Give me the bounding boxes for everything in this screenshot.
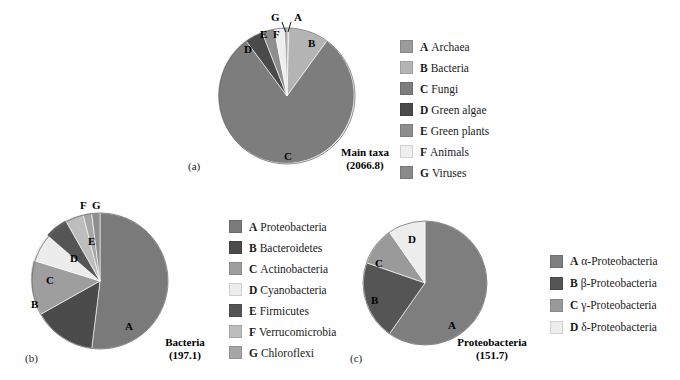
legend-swatch-a-A <box>400 40 413 53</box>
pie-b-label-A: A <box>125 320 133 332</box>
legend-key-a-A: A <box>420 41 428 53</box>
legend-key-a-G: G <box>420 167 429 179</box>
legend-swatch-c-D <box>550 321 563 334</box>
figure-tag-b: (b) <box>25 352 38 364</box>
legend-swatch-c-C <box>550 299 563 312</box>
legend-name-a-C: Fungi <box>431 83 458 95</box>
legend-name-a-E: Green plants <box>431 125 489 137</box>
legend-item[interactable]: AProteobacteria <box>229 216 336 237</box>
legend-key-c-D: D <box>570 321 578 333</box>
legend-item[interactable]: AArchaea <box>400 36 489 57</box>
legend-swatch-b-D <box>229 283 242 296</box>
pie-b-label-G: G <box>92 199 101 211</box>
figure-caption-b: Bacteria (197.1) <box>135 336 235 362</box>
legend-key-a-F: F <box>420 146 427 158</box>
legend-key-b-E: E <box>249 305 257 317</box>
legend-swatch-b-A <box>229 220 242 233</box>
legend-item[interactable]: FVerrucomicrobia <box>229 321 336 342</box>
legend-swatch-a-G <box>400 166 413 179</box>
legend-swatch-c-A <box>550 255 563 268</box>
legend-item[interactable]: DGreen algae <box>400 99 489 120</box>
legend-label-b-B: BBacteroidetes <box>249 242 322 254</box>
legend-label-a-C: CFungi <box>420 83 458 95</box>
legend-item[interactable]: GChloroflexi <box>229 342 336 363</box>
legend-key-c-A: A <box>570 255 578 267</box>
legend-item[interactable]: Dδ-Proteobacteria <box>550 316 658 338</box>
pie-b-label-F: F <box>80 199 87 211</box>
legend-label-b-D: DCyanobacteria <box>249 284 327 296</box>
pie-a-label-C: C <box>284 150 292 162</box>
legend-item[interactable]: CActinobacteria <box>229 258 336 279</box>
legend-name-b-G: Chloroflexi <box>261 347 314 359</box>
legend-key-b-A: A <box>249 221 257 233</box>
figure-caption-c: Proteobacteria (151.7) <box>437 336 547 362</box>
legend-label-c-A: Aα-Proteobacteria <box>570 255 658 267</box>
caption-a-title: Main taxa <box>341 146 389 158</box>
pie-a-label-E: E <box>260 28 267 40</box>
legend-swatch-a-E <box>400 124 413 137</box>
legend-item[interactable]: CFungi <box>400 78 489 99</box>
legend-key-a-E: E <box>420 125 428 137</box>
legend-a: AArchaea BBacteria CFungi DGreen algae E… <box>400 36 489 183</box>
pie-chart-c: A B C D <box>360 218 492 350</box>
legend-name-a-D: Green algae <box>431 104 486 116</box>
legend-label-a-B: BBacteria <box>420 62 469 74</box>
pie-b-label-E: E <box>88 235 95 247</box>
legend-swatch-b-F <box>229 325 242 338</box>
legend-key-b-D: D <box>249 284 257 296</box>
pie-c-label-D: D <box>408 233 416 245</box>
legend-label-b-E: EFirmicutes <box>249 305 309 317</box>
legend-item[interactable]: BBacteria <box>400 57 489 78</box>
legend-key-b-B: B <box>249 242 257 254</box>
legend-key-a-D: D <box>420 104 428 116</box>
legend-swatch-b-E <box>229 304 242 317</box>
legend-item[interactable]: Aα-Proteobacteria <box>550 250 658 272</box>
legend-name-a-B: Bacteria <box>431 62 469 74</box>
legend-name-b-C: Actinobacteria <box>260 263 328 275</box>
legend-swatch-a-F <box>400 145 413 158</box>
figure-tag-c: (c) <box>350 352 362 364</box>
pie-a-label-D: D <box>244 43 252 55</box>
legend-label-a-E: EGreen plants <box>420 125 489 137</box>
pie-c-label-B: B <box>371 294 379 306</box>
legend-item[interactable]: Cγ-Proteobacteria <box>550 294 658 316</box>
legend-name-b-B: Bacteroidetes <box>260 242 323 254</box>
legend-label-c-B: Bβ-Proteobacteria <box>570 277 657 289</box>
legend-name-c-C: γ-Proteobacteria <box>581 299 656 311</box>
legend-item[interactable]: EGreen plants <box>400 120 489 141</box>
legend-item[interactable]: FAnimals <box>400 141 489 162</box>
legend-key-b-F: F <box>249 326 256 338</box>
pie-c-label-A: A <box>448 319 456 331</box>
legend-item[interactable]: BBacteroidetes <box>229 237 336 258</box>
legend-swatch-b-G <box>229 346 242 359</box>
legend-label-b-F: FVerrucomicrobia <box>249 326 336 338</box>
legend-name-b-F: Verrucomicrobia <box>259 326 336 338</box>
pie-c-label-C: C <box>375 257 383 269</box>
pie-a-label-B: B <box>308 37 316 49</box>
legend-swatch-c-B <box>550 277 563 290</box>
legend-label-a-G: GViruses <box>420 167 466 179</box>
legend-swatch-b-B <box>229 241 242 254</box>
legend-label-c-C: Cγ-Proteobacteria <box>570 299 657 311</box>
legend-key-b-G: G <box>249 347 258 359</box>
legend-label-b-G: GChloroflexi <box>249 347 314 359</box>
legend-label-b-C: CActinobacteria <box>249 263 328 275</box>
legend-label-b-A: AProteobacteria <box>249 221 327 233</box>
legend-name-b-E: Firmicutes <box>260 305 309 317</box>
pie-b-label-C: C <box>46 274 54 286</box>
legend-item[interactable]: GViruses <box>400 162 489 183</box>
legend-swatch-b-C <box>229 262 242 275</box>
legend-label-a-A: AArchaea <box>420 41 470 53</box>
legend-item[interactable]: DCyanobacteria <box>229 279 336 300</box>
legend-name-c-B: β-Proteobacteria <box>581 277 657 289</box>
pie-c-svg: A B C D <box>360 218 492 350</box>
legend-label-a-D: DGreen algae <box>420 104 487 116</box>
legend-name-b-D: Cyanobacteria <box>260 284 326 296</box>
figure-tag-a: (a) <box>188 160 200 172</box>
legend-swatch-a-D <box>400 103 413 116</box>
caption-b-total: (197.1) <box>135 349 235 362</box>
legend-name-c-D: δ-Proteobacteria <box>581 321 657 333</box>
legend-item[interactable]: EFirmicutes <box>229 300 336 321</box>
legend-swatch-a-C <box>400 82 413 95</box>
legend-item[interactable]: Bβ-Proteobacteria <box>550 272 658 294</box>
